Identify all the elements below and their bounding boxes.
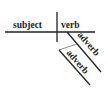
subject-label: subject xyxy=(13,20,43,30)
verb-label: verb xyxy=(61,20,79,30)
sentence-diagram: subject verb adverb adverb xyxy=(0,0,108,92)
adverb-label-1: adverb xyxy=(75,30,101,58)
